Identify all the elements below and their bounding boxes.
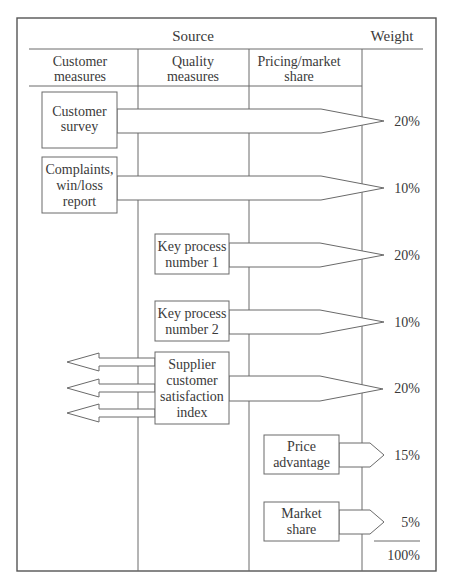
left-arrow-1 xyxy=(67,353,155,371)
arrow-key-process-1 xyxy=(229,243,384,267)
box-customer-survey-line1: Customer xyxy=(52,104,107,119)
box-key-process-1-line2: number 1 xyxy=(165,255,218,270)
box-key-process-1-line1: Key process xyxy=(158,239,227,254)
box-supplier-index-line1: Supplier xyxy=(168,357,216,372)
weighting-diagram: Source Weight Customer measures Quality … xyxy=(0,0,450,581)
weight-key-process-2: 10% xyxy=(394,315,420,330)
arrow-key-process-2 xyxy=(229,310,384,334)
weight-market-share: 5% xyxy=(401,515,420,530)
column-header-customer-line2: measures xyxy=(54,69,106,84)
arrow-price-advantage xyxy=(339,443,384,467)
arrow-supplier-index xyxy=(229,376,383,401)
weight-total: 100% xyxy=(387,548,420,563)
arrow-customer-survey xyxy=(117,109,384,133)
column-header-pricing-line2: share xyxy=(284,69,314,84)
weight-complaints: 10% xyxy=(394,181,420,196)
weight-key-process-1: 20% xyxy=(394,248,420,263)
weight-price-advantage: 15% xyxy=(394,448,420,463)
left-arrow-3 xyxy=(67,404,155,422)
source-header: Source xyxy=(172,28,214,44)
box-complaints-line2: win/loss xyxy=(56,178,103,193)
weight-supplier-index: 20% xyxy=(394,381,420,396)
column-header-pricing-line1: Pricing/market xyxy=(257,54,340,69)
column-header-quality-line1: Quality xyxy=(172,54,214,69)
box-price-advantage-line2: advantage xyxy=(273,455,330,470)
left-arrow-2 xyxy=(67,379,155,397)
column-header-customer-line1: Customer xyxy=(53,54,108,69)
box-customer-survey-line2: survey xyxy=(61,119,98,134)
box-key-process-2-line2: number 2 xyxy=(165,322,218,337)
arrow-market-share xyxy=(339,510,384,534)
box-key-process-2-line1: Key process xyxy=(158,306,227,321)
box-supplier-index-line4: index xyxy=(176,405,207,420)
box-market-share-line2: share xyxy=(287,522,317,537)
box-complaints-line3: report xyxy=(63,194,97,209)
column-header-quality-line2: measures xyxy=(167,69,219,84)
weight-header: Weight xyxy=(371,28,415,44)
box-market-share-line1: Market xyxy=(281,506,322,521)
arrow-complaints xyxy=(117,176,384,200)
weight-customer-survey: 20% xyxy=(394,114,420,129)
box-price-advantage-line1: Price xyxy=(287,439,316,454)
box-complaints-line1: Complaints, xyxy=(45,162,113,177)
box-supplier-index-line2: customer xyxy=(166,373,218,388)
box-supplier-index-line3: satisfaction xyxy=(160,389,224,404)
